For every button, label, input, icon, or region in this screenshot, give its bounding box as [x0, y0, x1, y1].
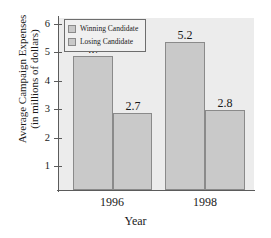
bar-value-1998-losing: 2.8: [205, 97, 245, 109]
legend: Winning Candidate Losing Candidate: [64, 19, 146, 52]
y-tick-label: 3: [34, 104, 50, 115]
y-tick-label: 2: [34, 133, 50, 144]
x-axis-line: [57, 190, 255, 191]
bar-1996-winning: [73, 56, 113, 190]
y-tick-mark: [54, 52, 62, 53]
y-axis-title-line-1: Average Campaign Expenses: [16, 15, 28, 144]
bar-value-1998-winning: 5.2: [165, 29, 205, 41]
y-tick-mark: [54, 166, 62, 167]
bar-1996-losing: [113, 113, 152, 190]
bar-chart-figure: Average Campaign Expenses (in millions o…: [0, 0, 271, 238]
legend-item-winning-candidate: Winning Candidate: [68, 23, 142, 35]
legend-item-losing-candidate: Losing Candidate: [68, 36, 142, 48]
y-tick-label: 5: [34, 47, 50, 58]
x-axis-title: Year: [0, 214, 271, 229]
bar-1998-losing: [205, 110, 245, 190]
y-tick-mark: [54, 24, 62, 25]
y-tick-mark: [54, 109, 62, 110]
legend-swatch-icon: [68, 38, 76, 46]
legend-item-label: Winning Candidate: [80, 25, 138, 33]
x-axis-label-1998: 1998: [175, 195, 235, 210]
legend-item-label: Losing Candidate: [80, 38, 133, 46]
y-tick-mark: [54, 138, 62, 139]
y-tick-label: 6: [34, 19, 50, 30]
y-tick-label: 4: [34, 76, 50, 87]
x-axis-label-1996: 1996: [82, 195, 142, 210]
legend-swatch-icon: [68, 25, 76, 33]
bar-1998-winning: [165, 42, 205, 190]
y-tick-mark: [54, 81, 62, 82]
bar-value-1996-losing: 2.7: [113, 100, 153, 112]
y-tick-label: 1: [34, 161, 50, 172]
